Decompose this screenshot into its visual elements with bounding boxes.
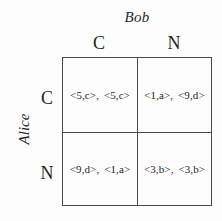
column-strategy-header-c: C	[62, 31, 136, 55]
matrix-row: <9,d>,<1,a> <3,b>,<3,b>	[63, 132, 211, 206]
column-player-label: Bob	[62, 7, 212, 27]
matrix-row: <5,c>,<5,c> <1,a>,<9,d>	[63, 58, 211, 132]
row-strategy-header-c: C	[33, 86, 61, 110]
column-payoff: <3,b>	[178, 163, 205, 175]
matrix-cell-n-n: <3,b>,<3,b>	[137, 133, 211, 206]
matrix-cell-c-c: <5,c>,<5,c>	[63, 58, 137, 132]
column-payoff: <1,a>	[104, 163, 130, 175]
matrix-cell-c-n: <1,a>,<9,d>	[137, 58, 211, 132]
row-payoff: <3,b>	[144, 163, 171, 175]
column-payoff: <9,d>	[178, 89, 205, 101]
row-payoff: <5,c>	[70, 89, 96, 101]
row-strategy-header-n: N	[33, 161, 61, 185]
payoff-separator: ,	[96, 163, 99, 175]
row-player-label: Alice	[15, 81, 33, 177]
payoff-pair: <9,d>,<1,a>	[70, 162, 130, 176]
payoff-separator: ,	[171, 163, 174, 175]
payoff-pair: <3,b>,<3,b>	[144, 162, 205, 176]
payoff-pair: <1,a>,<9,d>	[144, 88, 204, 102]
column-payoff: <5,c>	[104, 89, 130, 101]
payoff-separator: ,	[170, 89, 173, 101]
payoff-matrix-figure: Bob Alice C N C N <5,c>,<5,c> <1,a>,<9,d…	[0, 0, 222, 221]
payoff-separator: ,	[96, 89, 99, 101]
row-payoff: <1,a>	[144, 89, 170, 101]
matrix-cell-n-c: <9,d>,<1,a>	[63, 133, 137, 206]
column-strategy-header-n: N	[137, 31, 211, 55]
payoff-pair: <5,c>,<5,c>	[70, 88, 130, 102]
row-payoff: <9,d>	[70, 163, 97, 175]
payoff-matrix-grid: <5,c>,<5,c> <1,a>,<9,d> <9,d>,<1,a> <3,b…	[62, 57, 212, 206]
